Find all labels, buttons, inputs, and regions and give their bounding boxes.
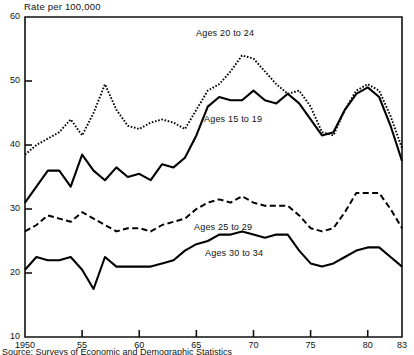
y-tick-label: 60	[2, 11, 20, 21]
x-tick-label: 70	[233, 340, 273, 350]
series-line-4	[25, 231, 402, 289]
y-tick-label: 20	[2, 267, 20, 277]
series-label: Ages 20 to 24	[196, 28, 254, 38]
chart-plot	[0, 0, 414, 355]
series-line-2	[25, 87, 402, 202]
series-label: Ages 15 to 19	[204, 114, 262, 124]
y-tick-label: 50	[2, 75, 20, 85]
y-tick-label: 40	[2, 139, 20, 149]
y-tick-label: 30	[2, 203, 20, 213]
x-tick-label: 75	[291, 340, 331, 350]
source-footnote: Source: Surveys of Economic and Demograp…	[2, 347, 232, 355]
x-tick-label: 83	[382, 340, 414, 350]
series-line-1	[25, 55, 402, 154]
series-label: Ages 30 to 34	[205, 248, 263, 258]
chart-axes	[25, 17, 402, 337]
chart-container: Rate per 100,000 102030405060 1950556065…	[0, 0, 414, 355]
series-label: Ages 25 to 29	[194, 222, 252, 232]
